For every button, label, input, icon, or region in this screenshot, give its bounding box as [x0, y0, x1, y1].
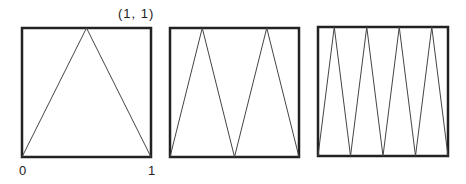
panel-3: [318, 27, 448, 156]
tent-map-curve: [170, 28, 299, 157]
origin-label: 0: [19, 163, 27, 178]
panel-1: [22, 28, 151, 157]
panel-2: [170, 28, 299, 157]
unit-square-frame: [318, 27, 448, 156]
diagram-canvas: [0, 0, 466, 184]
tent-map-curve: [318, 27, 448, 156]
unit-square-frame: [22, 28, 151, 157]
unit-square-frame: [170, 28, 299, 157]
one-label: 1: [148, 163, 156, 178]
corner-label: (1, 1): [118, 6, 154, 21]
tent-map-curve: [22, 28, 151, 157]
